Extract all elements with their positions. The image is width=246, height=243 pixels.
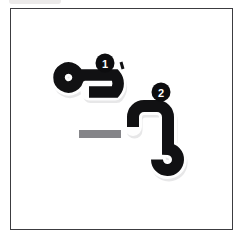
stroke-order-badge-2: 2 <box>152 83 171 102</box>
glyph-stage: 1 2 <box>11 9 234 231</box>
baseline-guide-bar <box>79 130 121 138</box>
character-frame: 1 2 <box>10 8 233 230</box>
stroke-order-badge-2-label: 2 <box>158 87 164 99</box>
stroke-order-badge-1-label: 1 <box>102 58 108 70</box>
stroke-2-group <box>133 106 180 173</box>
stroke-order-badge-1: 1 <box>96 54 115 73</box>
cropped-ui-sliver <box>9 0 61 4</box>
stroke-order-card: 1 2 <box>0 0 246 243</box>
